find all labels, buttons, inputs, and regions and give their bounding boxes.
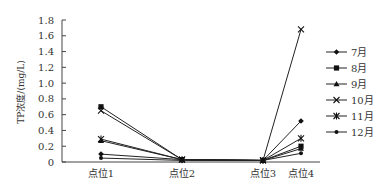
- y-tick-label: 0.6: [38, 109, 54, 120]
- x-tick-label: 点位1: [88, 167, 114, 179]
- legend-label: 9月: [351, 79, 367, 90]
- x-tick-label: 点位2: [169, 167, 195, 179]
- legend-item: 10月: [326, 95, 374, 106]
- y-axis: 00.20.40.60.81.01.21.41.61.8: [38, 15, 66, 168]
- y-tick-label: 1.4: [38, 46, 54, 57]
- y-tick-label: 1.6: [38, 30, 54, 41]
- y-tick-label: 1.0: [38, 78, 54, 89]
- y-tick-label: 0.2: [38, 141, 54, 152]
- legend-item: 11月: [326, 111, 374, 122]
- x-tick-label: 点位3: [250, 167, 276, 179]
- legend-label: 7月: [351, 47, 367, 58]
- legend-item: 7月: [326, 47, 367, 58]
- legend-item: 12月: [326, 127, 374, 138]
- line-chart: TP浓度/(mg/L) 00.20.40.60.81.01.21.41.61.8…: [0, 0, 389, 189]
- legend-label: 8月: [351, 63, 367, 74]
- data-series: [98, 26, 304, 163]
- y-tick-label: 1.2: [38, 62, 54, 73]
- legend-item: 8月: [326, 63, 367, 74]
- x-tick-label: 点位4: [288, 167, 314, 179]
- y-tick-label: 1.8: [38, 15, 54, 26]
- series-10月: [98, 26, 304, 163]
- y-tick-label: 0.8: [38, 93, 54, 104]
- legend-label: 10月: [351, 95, 374, 106]
- legend: 7月8月9月10月11月12月: [326, 47, 374, 138]
- legend-item: 9月: [326, 79, 367, 90]
- y-tick-label: 0.4: [38, 125, 54, 136]
- legend-label: 11月: [351, 111, 374, 122]
- y-tick-label: 0: [48, 157, 54, 168]
- y-axis-label: TP浓度/(mg/L): [15, 60, 26, 123]
- legend-label: 12月: [351, 127, 374, 138]
- x-axis: 点位1点位2点位3点位4: [62, 162, 320, 179]
